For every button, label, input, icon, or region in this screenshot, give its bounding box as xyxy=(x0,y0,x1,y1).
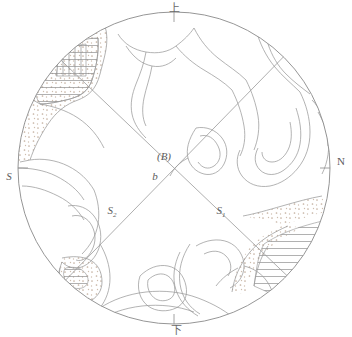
stereogram-root: 上 下 S N (B) b S2 S1 xyxy=(0,0,352,337)
cardinal-label-top: 上 xyxy=(169,2,180,15)
contour-line xyxy=(179,244,200,314)
contour-line xyxy=(194,28,246,80)
contour-line xyxy=(232,90,245,156)
fabric-diagram: 上 下 S N (B) b S2 S1 xyxy=(0,0,352,337)
contour-line xyxy=(255,108,301,175)
cardinal-label-left: S xyxy=(6,170,12,182)
contour-line xyxy=(94,305,194,322)
contour-line xyxy=(312,100,329,174)
contour-line xyxy=(174,252,198,316)
contour-line xyxy=(30,159,94,190)
b-axis-bracket-label: (B) xyxy=(157,150,171,163)
contour-line xyxy=(82,190,99,254)
girdle-label-s1: S1 xyxy=(217,204,226,219)
contour-line xyxy=(148,274,175,301)
contour-line xyxy=(187,127,227,174)
contour-line xyxy=(131,52,146,138)
girdle-label-s2-subscript: 2 xyxy=(113,211,117,219)
contour-line xyxy=(246,80,259,150)
girdle-line-s1 xyxy=(44,44,300,288)
cardinal-label-bottom: 下 xyxy=(171,324,182,337)
contour-line xyxy=(204,251,231,276)
contour-line xyxy=(268,44,310,94)
cardinal-label-right: N xyxy=(337,155,345,167)
contour-line xyxy=(126,46,176,67)
girdle-label-s2: S2 xyxy=(108,204,118,219)
contour-line xyxy=(198,135,220,168)
hatch-vertical-region-upper-left xyxy=(56,44,86,76)
contour-line xyxy=(143,66,152,126)
b-axis-label: b xyxy=(152,170,158,182)
contour-line xyxy=(176,46,232,90)
contour-line xyxy=(118,28,194,53)
contour-line xyxy=(237,92,310,187)
contour-line xyxy=(100,291,238,322)
girdle-label-s1-subscript: 1 xyxy=(222,211,226,219)
contour-line xyxy=(22,186,84,220)
contour-line xyxy=(318,112,328,146)
contour-line xyxy=(18,168,84,200)
contour-line xyxy=(262,122,291,162)
